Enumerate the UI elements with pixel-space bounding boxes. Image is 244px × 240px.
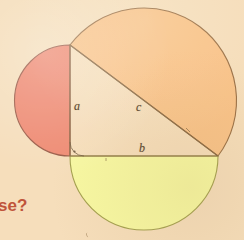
side-label-b: b xyxy=(139,142,145,154)
side-label-a: a xyxy=(74,100,80,112)
figure-page: a c b se? xyxy=(0,0,244,240)
right-angle-dot-icon xyxy=(73,150,75,152)
semicircle-on-leg-a xyxy=(15,45,70,156)
semicircle-on-leg-b xyxy=(70,156,218,230)
right-angle-arc-icon xyxy=(70,142,84,156)
caption-text-fragment: se? xyxy=(0,197,27,214)
pythagorean-semicircles-figure xyxy=(0,0,244,240)
semicircle-on-hypotenuse-c xyxy=(70,8,237,156)
side-label-c: c xyxy=(136,101,142,113)
